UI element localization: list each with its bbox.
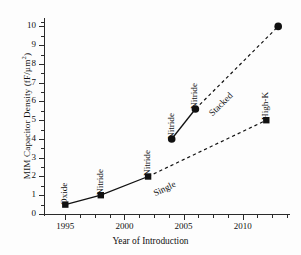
y-tick-label: 1 (14, 189, 36, 199)
data-point-label: Oxide (59, 182, 69, 204)
y-axis-title-tail: ) (22, 53, 32, 56)
data-point-label: Nitride (166, 113, 176, 139)
y-tick-label: 3 (14, 152, 36, 162)
y-tick-label: 9 (14, 39, 36, 49)
y-tick-label: 6 (14, 95, 36, 105)
x-tick-label: 2000 (104, 221, 144, 231)
y-tick-label: 0 (14, 208, 36, 218)
data-point-label: Nitride (189, 83, 199, 109)
x-tick-label: 2010 (223, 221, 263, 231)
x-tick-label: 1995 (45, 221, 85, 231)
data-point-label: Nitride (95, 169, 105, 195)
y-tick-label: 10 (14, 20, 36, 30)
y-tick-label: 2 (14, 170, 36, 180)
y-tick-label: 4 (14, 133, 36, 143)
x-axis-title: Year of Introduction (0, 236, 301, 246)
data-point-circle (274, 23, 282, 31)
mim-capacitor-density-chart: MIM Capacitor Density (fF/µm2) 012345678… (0, 0, 301, 255)
plot-area: 012345678910 1995200020052010 OxideNitri… (44, 18, 290, 216)
data-point-label: Nitride (142, 150, 152, 176)
y-tick-label: 7 (14, 77, 36, 87)
series-line-solid (65, 177, 148, 205)
x-tick-label: 2005 (164, 221, 204, 231)
y-tick-label: 5 (14, 114, 36, 124)
y-tick-label: 8 (14, 58, 36, 68)
data-point-label: High-K (260, 92, 270, 120)
